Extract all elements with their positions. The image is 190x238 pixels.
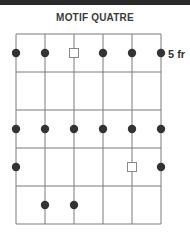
finger-dot (12, 163, 20, 171)
finger-dot (12, 49, 20, 57)
finger-dot (70, 201, 78, 209)
fretboard-diagram (0, 0, 190, 238)
finger-dot (128, 125, 136, 133)
finger-dot (99, 125, 107, 133)
finger-dot (70, 125, 78, 133)
finger-dot (12, 125, 20, 133)
finger-dot (128, 49, 136, 57)
fret-position-label: 5 fr (168, 48, 185, 60)
finger-dot (41, 125, 49, 133)
finger-dot (41, 201, 49, 209)
finger-dot (157, 163, 165, 171)
finger-dot (157, 49, 165, 57)
finger-dot (99, 49, 107, 57)
finger-dot (41, 49, 49, 57)
root-square-marker (128, 163, 137, 172)
finger-dot (157, 125, 165, 133)
root-square-marker (70, 49, 79, 58)
